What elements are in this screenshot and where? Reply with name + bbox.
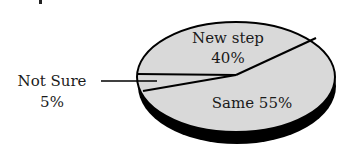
cropped-text-fragment (39, 0, 42, 4)
pie-chart: New step 40% Same 55% Not Sure 5% (0, 0, 343, 160)
slice-boundary-newstep-notsure (138, 74, 236, 75)
label-new-step-pct: 40% (211, 49, 244, 67)
label-not-sure-pct: 5% (40, 93, 64, 111)
label-new-step-name: New step (192, 29, 264, 47)
label-not-sure-name: Not Sure (18, 72, 87, 90)
label-same: Same 55% (212, 94, 292, 112)
